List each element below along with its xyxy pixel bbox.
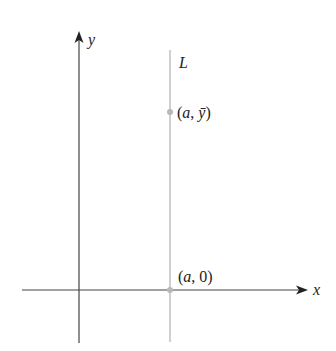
y-axis: [75, 31, 84, 343]
point-a-ybar-label: (a, ȳ): [177, 104, 211, 122]
point-a-0-label: (a, 0): [178, 268, 213, 286]
point-a-ybar: [167, 109, 173, 115]
x-axis: [22, 286, 308, 295]
diagram-canvas: y x L (a, ȳ) (a, 0): [0, 0, 336, 351]
x-axis-label: x: [312, 281, 320, 298]
point-a-0: [167, 287, 173, 293]
y-axis-label: y: [86, 31, 96, 49]
line-L-label: L: [178, 54, 188, 71]
